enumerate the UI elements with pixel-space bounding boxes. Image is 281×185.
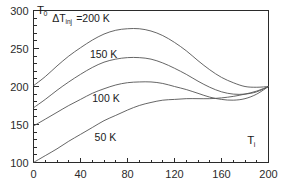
series-label-suffix: 150 K [90,48,117,60]
axis-frame [34,11,269,163]
series-label-dT100: 100 K [92,92,119,104]
series-label-prefix: ΔT [52,12,66,24]
chart-axis-symbols: T0Ti [37,4,256,148]
x-axis-tick-label: 120 [165,168,183,180]
x-axis-tick-label: 80 [121,168,133,180]
series-curve-dT200 [34,29,269,88]
chart-series-curves [34,29,269,163]
y-axis-symbol: T0 [37,4,48,18]
y-axis-tick-label: 200 [10,81,28,93]
y-axis-tick-label: 250 [10,43,28,55]
x-axis-tick-label: 160 [212,168,230,180]
series-label-dT200: ΔTinj=200 K [52,12,109,26]
line-chart: 04080120160200100150200250300 ΔTinj=200 … [0,0,281,185]
series-curve-dT50 [34,87,269,163]
x-axis-tick-label: 0 [30,168,36,180]
y-axis-tick-label: 100 [10,157,28,169]
chart-figure: 04080120160200100150200250300 ΔTinj=200 … [0,0,281,185]
x-axis-symbol-subscript: i [254,141,256,148]
y-axis-tick-label: 150 [10,119,28,131]
series-curve-dT100 [34,82,269,126]
series-label-dT50: 50 K [95,131,117,143]
x-axis-symbol: Ti [247,134,256,148]
series-label-suffix: 50 K [95,131,117,143]
series-label-dT150: 150 K [90,48,117,60]
x-axis-tick-label: 40 [74,168,86,180]
chart-tick-marks [34,11,269,163]
series-label-suffix: =200 K [76,12,110,24]
series-label-suffix: 100 K [92,92,119,104]
x-axis-tick-label: 200 [259,168,277,180]
y-axis-symbol-subscript: 0 [44,10,48,17]
series-label-subscript: inj [66,18,73,26]
chart-axes [34,11,269,163]
y-axis-tick-label: 300 [10,5,28,17]
